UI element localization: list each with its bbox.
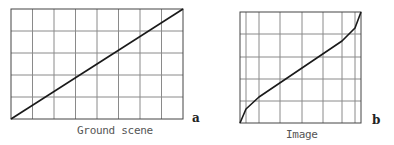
panel-b-curve <box>240 12 361 123</box>
panel-a-caption: Ground scene <box>77 124 153 137</box>
panel-a-tag: a <box>192 111 200 125</box>
panel-b-tag: b <box>372 113 380 127</box>
panel-b-frame <box>240 12 361 123</box>
panel-b-caption: Image <box>286 128 318 141</box>
panel-b-grid <box>240 12 361 123</box>
